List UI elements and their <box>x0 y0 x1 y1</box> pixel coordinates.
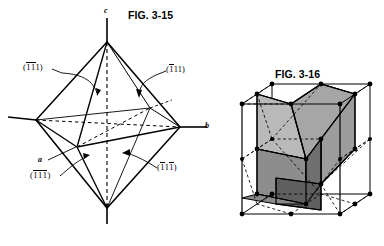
vertex-dot <box>338 157 342 161</box>
axis-label-b: b <box>205 121 209 130</box>
vertex-dot <box>304 157 309 162</box>
axis-b-internal-dashed <box>36 120 180 127</box>
vertex-dot <box>319 182 324 187</box>
leader-stub-upper-left <box>52 69 62 73</box>
vertex-dot <box>338 102 343 107</box>
miller-index-label-upper-left: (111) <box>23 62 43 72</box>
vertex-dot <box>353 202 358 207</box>
octahedron-edge-top-back <box>107 42 150 108</box>
axis-label-c: c <box>104 6 108 15</box>
octahedron-drawing <box>0 0 215 246</box>
figure-3-16 <box>228 58 384 246</box>
paren-close: ) <box>40 62 43 72</box>
vertex-dot <box>240 157 244 161</box>
paren-close: ) <box>182 64 185 74</box>
octahedron-edge-left-front <box>36 120 77 147</box>
vertex-dot <box>338 212 343 217</box>
leader-arrowhead-lower-right <box>122 149 130 156</box>
paren-close: ) <box>47 170 50 180</box>
vertex-dot <box>368 82 373 87</box>
octahedron-edge-bottom-back <box>107 108 150 208</box>
construction-line-back <box>150 100 172 108</box>
leader-stub-upper-right <box>156 71 166 75</box>
leader-line-upper-left <box>62 73 97 93</box>
vertex-dot <box>319 137 324 142</box>
leader-arrowhead-lower-left <box>83 153 90 159</box>
vertex-dot <box>240 102 245 107</box>
vertex-dot <box>368 192 373 197</box>
vertex-dot <box>255 192 260 197</box>
axis-a-internal-dashed <box>77 108 150 147</box>
vertex-dot <box>270 192 275 197</box>
leader-arrowhead-upper-left <box>96 88 101 96</box>
leader-stub-lower-left <box>60 170 67 176</box>
octahedron-edge-right-back <box>150 108 180 127</box>
leader-line-upper-right <box>139 75 156 95</box>
octahedron-silhouette <box>36 42 180 208</box>
vertex-dot <box>319 82 324 87</box>
vertex-dot <box>270 82 275 87</box>
vertex-dot <box>289 102 294 107</box>
axis-label-a: a <box>38 155 42 164</box>
leader-stub-lower-right <box>149 163 157 168</box>
axis-a-line <box>8 117 36 120</box>
leader-axis-a <box>48 146 78 160</box>
vertex-dot <box>255 92 260 97</box>
miller-index-label-upper-right: (111) <box>166 64 185 74</box>
miller-index-label-lower-right: (111) <box>157 162 177 172</box>
vertex-dot <box>304 202 309 207</box>
vertex-dot <box>289 212 294 217</box>
figure-3-15: c b a (111) (111) (111) (111) <box>0 0 215 246</box>
miller-index-label-lower-left: (111) <box>30 170 50 180</box>
cube-with-rhombohedron-drawing <box>228 58 384 246</box>
leader-line-lower-left <box>67 157 86 170</box>
octahedron-edge-left-back <box>36 108 150 120</box>
vertex-dot <box>240 212 245 217</box>
vertex-dot <box>353 147 358 152</box>
vertex-dot <box>255 147 260 152</box>
vertex-dot <box>270 137 274 141</box>
vertex-dot <box>368 137 372 141</box>
vertex-dot <box>353 92 358 97</box>
figure-page: FIG. 3-15 <box>0 0 384 246</box>
paren-close: ) <box>174 162 177 172</box>
